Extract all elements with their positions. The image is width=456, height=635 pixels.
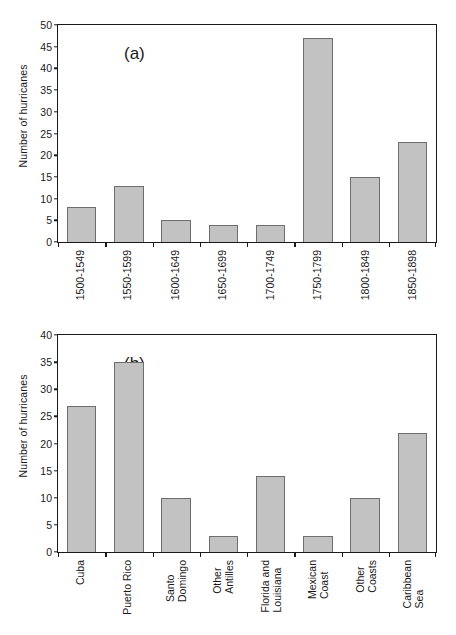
x-tick-label: 1650-1699 [218, 250, 230, 300]
bar [303, 536, 332, 552]
chart-panel-a: Number of hurricanes (a) 051015202530354… [0, 10, 456, 310]
x-axis-labels-b: CubaPuerto RicoSanto DomingoOther Antill… [57, 560, 437, 632]
x-label-cell: Caribbean Sea [390, 560, 438, 632]
bar [256, 476, 285, 552]
bar-slot [389, 335, 436, 552]
x-tick-label: 1500-1549 [75, 250, 87, 300]
bar-series-a [58, 25, 436, 242]
figure-two-panel-bar-charts: Number of hurricanes (a) 051015202530354… [0, 0, 456, 635]
x-label-cell: 1700-1749 [247, 250, 295, 314]
bar-slot [342, 25, 389, 242]
x-tick-label: Mexican Coast [307, 560, 330, 599]
x-tick-label: 1700-1749 [265, 250, 277, 300]
x-label-cell: Florida and Louisiana [247, 560, 295, 632]
x-tick-mark [389, 242, 436, 247]
x-label-cell: Santo Domingo [152, 560, 200, 632]
bar [114, 186, 143, 242]
x-tick-mark [247, 552, 294, 557]
x-tick-mark [389, 552, 436, 557]
x-tick-mark [342, 242, 389, 247]
x-tick-mark [247, 242, 294, 247]
x-tick-mark [105, 552, 152, 557]
x-tick-label: 1850-1898 [408, 250, 420, 300]
bar-slot [247, 25, 294, 242]
bar-slot [105, 335, 152, 552]
bar [303, 38, 332, 242]
x-tick-mark [200, 242, 247, 247]
x-tick-mark [58, 552, 105, 557]
x-tick-mark [105, 242, 152, 247]
x-label-cell: 1500-1549 [57, 250, 105, 314]
chart-panel-b: Number of hurricanes (b) 051015202530354… [0, 320, 456, 630]
x-tick-label: 1800-1849 [360, 250, 372, 300]
x-tick-label: Cuba [75, 560, 87, 585]
x-tick-mark [153, 242, 200, 247]
x-label-cell: Other Coasts [342, 560, 390, 632]
bar [350, 177, 379, 242]
x-label-cell: 1750-1799 [295, 250, 343, 314]
plot-area-a: (a) 05101520253035404550 [57, 24, 437, 243]
x-tick-mark [153, 552, 200, 557]
bar-slot [58, 335, 105, 552]
bar-slot [389, 25, 436, 242]
bar [256, 225, 285, 242]
bar [350, 498, 379, 552]
x-axis-labels-a: 1500-15491550-15991600-16491650-16991700… [57, 250, 437, 314]
bar-series-b [58, 335, 436, 552]
bar-slot [342, 335, 389, 552]
x-tick-label: Puerto Rico [123, 560, 135, 615]
x-axis-ticks-a [58, 242, 436, 247]
bar-slot [247, 335, 294, 552]
x-tick-label: 1600-1649 [170, 250, 182, 300]
x-tick-label: 1550-1599 [123, 250, 135, 300]
bar-slot [58, 25, 105, 242]
bar [209, 536, 238, 552]
x-label-cell: 1650-1699 [200, 250, 248, 314]
bar-slot [153, 25, 200, 242]
bar-slot [294, 25, 341, 242]
x-tick-mark [294, 552, 341, 557]
x-tick-label: Santo Domingo [164, 560, 187, 602]
x-tick-mark [58, 242, 105, 247]
bar-slot [294, 335, 341, 552]
x-tick-label: Florida and Louisiana [259, 560, 282, 613]
x-tick-mark [342, 552, 389, 557]
x-tick-label: Caribbean Sea [402, 560, 425, 608]
bar-slot [200, 25, 247, 242]
bar [209, 225, 238, 242]
bar [161, 498, 190, 552]
bar-slot [105, 25, 152, 242]
bar-slot [153, 335, 200, 552]
bar [398, 142, 427, 242]
x-label-cell: Puerto Rico [105, 560, 153, 632]
x-tick-label: 1750-1799 [313, 250, 325, 300]
x-label-cell: 1800-1849 [342, 250, 390, 314]
bar [67, 406, 96, 552]
bar [67, 207, 96, 242]
x-label-cell: Other Antilles [200, 560, 248, 632]
x-label-cell: 1850-1898 [390, 250, 438, 314]
bar [161, 220, 190, 242]
x-tick-label: Other Coasts [354, 560, 377, 593]
x-label-cell: Mexican Coast [295, 560, 343, 632]
x-label-cell: 1550-1599 [105, 250, 153, 314]
bar [114, 362, 143, 552]
x-tick-label: Other Antilles [212, 560, 235, 594]
x-label-cell: Cuba [57, 560, 105, 632]
x-tick-mark [200, 552, 247, 557]
bar-slot [200, 335, 247, 552]
x-tick-mark [294, 242, 341, 247]
x-label-cell: 1600-1649 [152, 250, 200, 314]
bar [398, 433, 427, 552]
plot-area-b: (b) 0510152025303540 [57, 334, 437, 553]
x-axis-ticks-b [58, 552, 436, 557]
